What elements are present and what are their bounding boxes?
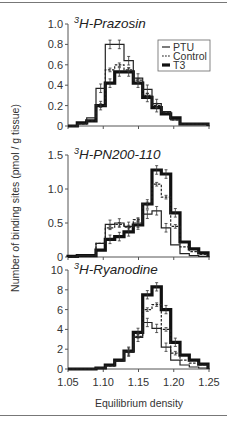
x-tick-label: 1.15 bbox=[128, 376, 149, 388]
y-tick-label: 6 bbox=[57, 304, 63, 316]
y-tick-label: 0.2 bbox=[48, 100, 63, 112]
binding-sites-histogram-figure: Number of binding sites (pmol / g tissue… bbox=[0, 0, 227, 427]
panel-title: 3H-Prazosin bbox=[74, 15, 146, 31]
y-tick-label: 1.0 bbox=[48, 18, 63, 30]
y-tick-label: 2 bbox=[57, 343, 63, 355]
y-tick-label: 0.5 bbox=[48, 217, 63, 229]
y-tick-label: 10 bbox=[51, 264, 63, 276]
y-tick-label: 8 bbox=[57, 284, 63, 296]
series-t3 bbox=[68, 170, 208, 257]
y-tick-label: 0.8 bbox=[48, 38, 63, 50]
y-tick-label: 4 bbox=[57, 323, 63, 335]
y-tick-label: 0 bbox=[57, 363, 63, 375]
legend: PTUControlT3 bbox=[158, 40, 210, 71]
legend-label-t3: T3 bbox=[173, 59, 185, 71]
y-tick-label: 0 bbox=[57, 120, 63, 132]
y-tick-label: 0.4 bbox=[48, 79, 63, 91]
panel-h-ryanodine: 02468103H-Ryanodine bbox=[51, 261, 210, 375]
y-tick-label: 0.6 bbox=[48, 59, 63, 71]
x-tick-label: 1.10 bbox=[93, 376, 114, 388]
x-tick-label: 1.20 bbox=[163, 376, 184, 388]
y-tick-label: 0 bbox=[57, 251, 63, 263]
x-tick-label: 1.25 bbox=[198, 376, 219, 388]
panel-h-pn200-110: 00.51.01.53H-PN200-110 bbox=[48, 146, 210, 263]
x-axis-label: Equilibrium density bbox=[95, 397, 184, 409]
x-tick-labels: 1.051.101.151.201.25 bbox=[57, 376, 219, 388]
panel-h-prazosin: 00.20.40.60.81.03H-Prazosin bbox=[48, 15, 210, 132]
y-axis-label: Number of binding sites (pmol / g tissue… bbox=[9, 104, 21, 292]
y-tick-label: 1.5 bbox=[48, 149, 63, 161]
panel-title: 3H-Ryanodine bbox=[74, 261, 158, 277]
y-tick-label: 1.0 bbox=[48, 183, 63, 195]
panel-title: 3H-PN200-110 bbox=[74, 146, 161, 162]
x-tick-label: 1.05 bbox=[57, 376, 78, 388]
